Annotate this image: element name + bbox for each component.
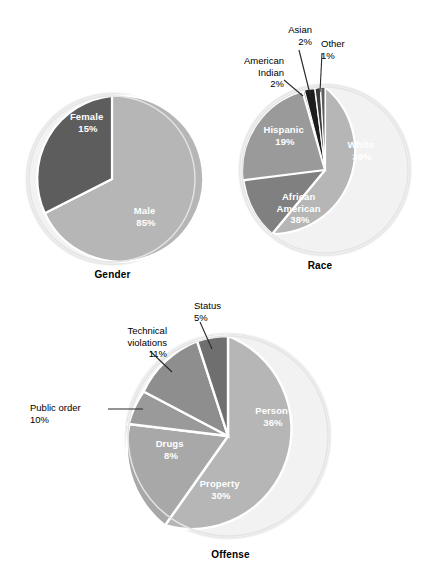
race-pie-svg: White 39% African American 38% Hispanic … xyxy=(215,73,425,258)
race-outer-label-asian: Asian 2% xyxy=(268,24,312,47)
offense-outer-label-technical-violations: Technical violations 11% xyxy=(95,325,167,360)
gender-pie-svg: Male 85% Female 15% xyxy=(0,82,225,267)
race-outer-label-american-indian: American Indian 2% xyxy=(218,55,284,90)
offense-outer-label-public-order: Public order 10% xyxy=(30,402,110,425)
gender-caption: Gender xyxy=(0,269,225,280)
offense-pie-svg: Person 36% Property 30% Drugs 8% xyxy=(123,331,338,546)
race-caption: Race xyxy=(215,260,425,271)
gender-label-male: Male 85% xyxy=(134,205,158,228)
chart-gender: Male 85% Female 15% Gender xyxy=(0,82,225,267)
offense-caption: Offense xyxy=(123,549,338,560)
race-outer-label-other: Other 1% xyxy=(321,38,365,61)
offense-outer-label-status: Status 5% xyxy=(194,300,246,323)
pie-chart-figure: Male 85% Female 15% Gender xyxy=(0,0,425,573)
chart-offense: Person 36% Property 30% Drugs 8% Offense xyxy=(123,331,338,546)
chart-race: White 39% African American 38% Hispanic … xyxy=(215,73,425,258)
